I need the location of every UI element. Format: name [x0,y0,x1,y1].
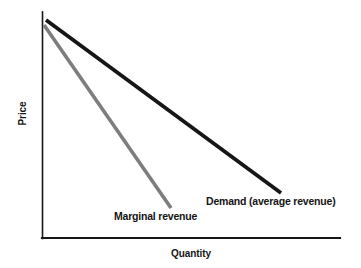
demand-curve-label: Demand (average revenue) [206,195,335,207]
y-axis-label: Price [17,96,28,132]
x-axis-label: Quantity [42,248,340,259]
marginal-revenue-curve [44,25,171,208]
demand-curve [46,20,281,193]
chart-plot-area [0,0,361,268]
marginal-revenue-curve-label: Marginal revenue [114,210,197,222]
economics-demand-marginal-revenue-chart: Price Quantity Marginal revenue Demand (… [0,0,361,268]
